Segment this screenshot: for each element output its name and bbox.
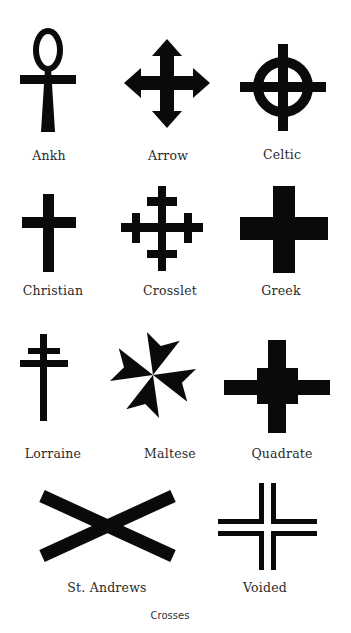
label-ankh: Ankh [32, 148, 66, 163]
label-lorraine: Lorraine [25, 446, 81, 461]
st-andrews-cross-icon [42, 496, 173, 556]
crosses-illustration [0, 0, 351, 633]
crosslet-cross-icon [121, 186, 203, 271]
label-quadrate: Quadrate [251, 446, 312, 461]
greek-cross-icon [240, 186, 328, 273]
arrow-cross-icon [124, 39, 210, 128]
label-christian: Christian [23, 283, 83, 298]
label-st-andrews: St. Andrews [67, 580, 146, 595]
lorraine-cross-icon [20, 334, 68, 421]
quadrate-cross-icon [224, 340, 330, 433]
label-crosslet: Crosslet [143, 283, 197, 298]
label-maltese: Maltese [144, 446, 196, 461]
label-greek: Greek [261, 283, 300, 298]
label-voided: Voided [243, 580, 287, 595]
maltese-cross-icon [104, 326, 202, 424]
ankh-icon [20, 31, 76, 132]
crosses-figure: Ankh Arrow Celtic Christian Crosslet Gre… [0, 0, 351, 633]
christian-cross-icon [22, 194, 76, 272]
figure-caption: Crosses [151, 610, 190, 621]
voided-cross-icon [218, 483, 317, 570]
label-celtic: Celtic [263, 147, 301, 162]
label-arrow: Arrow [148, 148, 188, 163]
celtic-cross-icon [240, 44, 326, 131]
